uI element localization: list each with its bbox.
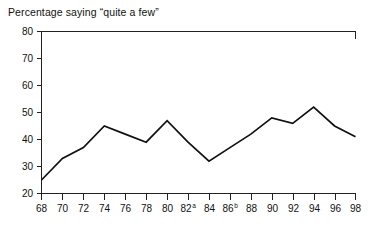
x-axis-ticks [42,194,356,200]
x-axis-tick-labels: 68 70 72 74 76 78 80 82 a 84 86 b 88 90 … [36,202,362,215]
x-tick-label-96: 96 [330,203,342,214]
x-tick-label-88: 88 [246,203,258,214]
data-series-line [42,107,356,180]
chart-figure: Percentage saying “quite a few” 80 70 60… [0,0,375,228]
x-tick-label-86: 86 [222,203,234,214]
x-tick-label-68: 68 [36,203,48,214]
x-tick-label-82-superscript: a [192,202,196,209]
line-chart-plot: 80 70 60 50 40 30 20 [0,0,375,228]
x-tick-label-98: 98 [350,203,362,214]
y-axis-ticks: 80 70 60 50 40 30 20 [22,26,42,199]
x-tick-label-86-superscript: b [234,202,238,209]
x-tick-label-78: 78 [141,203,153,214]
y-tick-label-50: 50 [22,107,34,118]
x-tick-label-80: 80 [162,203,174,214]
y-tick-label-80: 80 [22,26,34,37]
y-tick-label-20: 20 [22,188,34,199]
y-tick-label-40: 40 [22,134,34,145]
x-tick-label-76: 76 [120,203,132,214]
axis-frame [42,32,356,194]
x-tick-label-90: 90 [267,203,279,214]
y-tick-label-30: 30 [22,161,34,172]
y-tick-label-60: 60 [22,80,34,91]
x-tick-label-94: 94 [309,203,321,214]
x-tick-label-74: 74 [99,203,111,214]
x-tick-label-92: 92 [288,203,300,214]
x-tick-label-72: 72 [78,203,90,214]
x-tick-label-70: 70 [57,203,69,214]
x-tick-label-84: 84 [204,203,216,214]
y-tick-label-70: 70 [22,53,34,64]
x-tick-label-82: 82 [180,203,192,214]
